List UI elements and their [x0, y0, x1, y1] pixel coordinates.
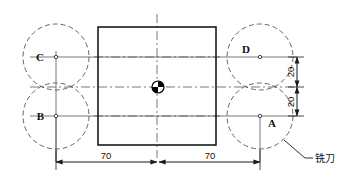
- drawing-canvas: CBDA 70702020 铣刀: [0, 0, 345, 181]
- cutter-leader-line: [284, 140, 313, 158]
- cutter-D-label: D: [242, 43, 250, 55]
- cutter-leader-label: 铣刀: [315, 152, 335, 164]
- engineering-drawing: CBDA 70702020 铣刀: [0, 0, 345, 181]
- cutter-C-label: C: [36, 51, 44, 63]
- dimensions-group: [56, 57, 304, 170]
- cutter-A-label: A: [268, 117, 276, 129]
- dimension-text-group: 70702020: [101, 67, 296, 161]
- cutter-B-label: B: [37, 110, 45, 122]
- dim-70-left-text: 70: [101, 150, 112, 161]
- cutter-D-center-dot: [258, 55, 261, 58]
- dim-70-right-text: 70: [205, 150, 216, 161]
- cutter-leader: [284, 140, 313, 158]
- center-marker-quadrant-sw: [152, 87, 158, 93]
- dim-20-lower-text: 20: [285, 97, 296, 108]
- cutter-A-center-dot: [258, 114, 261, 117]
- center-marker-quadrant-ne: [158, 81, 164, 87]
- workpiece-center-marker: [152, 81, 164, 93]
- cutter-C-center-dot: [54, 55, 57, 58]
- cutter-B-center-dot: [54, 114, 57, 117]
- dim-20-upper-text: 20: [285, 67, 296, 78]
